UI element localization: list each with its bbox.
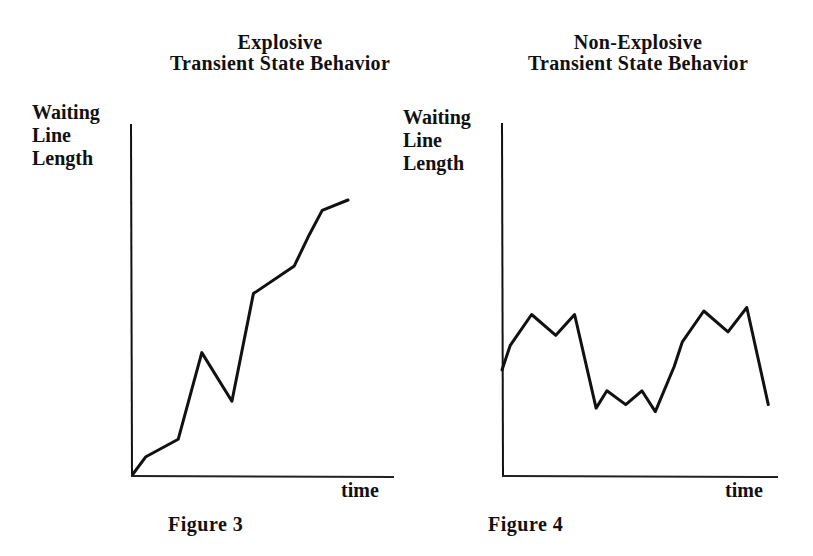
plots-canvas [0, 0, 813, 556]
figure3-xlabel: time [341, 479, 379, 501]
figure4-x-axis [502, 476, 778, 477]
figure3-data-line [133, 200, 348, 474]
figure4-plot [502, 123, 778, 477]
figure3-caption: Figure 3 [168, 513, 243, 535]
figure3-x-axis [131, 476, 394, 477]
figure4-y-axis [502, 123, 503, 476]
figure4-data-line [502, 308, 768, 412]
figure3-y-axis [131, 124, 132, 476]
figure3-plot [131, 124, 394, 477]
figure4-xlabel: time [725, 479, 763, 501]
figure4-caption: Figure 4 [488, 513, 563, 535]
